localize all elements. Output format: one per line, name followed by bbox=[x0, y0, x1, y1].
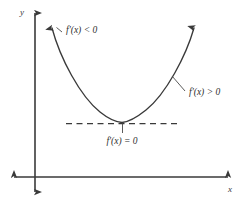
leader-line-left bbox=[57, 28, 63, 33]
derivative-figure: y x f′(x) < 0 f′(x) > 0 f′(x) = 0 bbox=[0, 0, 242, 205]
function-curve-group bbox=[52, 28, 194, 123]
leader-lines-group bbox=[57, 28, 186, 134]
axes-group: y x bbox=[14, 7, 232, 194]
figure-canvas: y x f′(x) < 0 f′(x) > 0 f′(x) = 0 bbox=[0, 0, 242, 205]
annotations-group: f′(x) < 0 f′(x) > 0 f′(x) = 0 bbox=[66, 25, 220, 147]
parabola-curve bbox=[52, 28, 194, 123]
annotation-vertex: f′(x) = 0 bbox=[106, 136, 137, 147]
x-axis-label: x bbox=[227, 184, 232, 194]
leader-line-right bbox=[172, 76, 185, 91]
annotation-right-branch: f′(x) > 0 bbox=[189, 87, 220, 98]
y-axis-label: y bbox=[19, 7, 24, 17]
annotation-left-branch: f′(x) < 0 bbox=[66, 25, 97, 36]
